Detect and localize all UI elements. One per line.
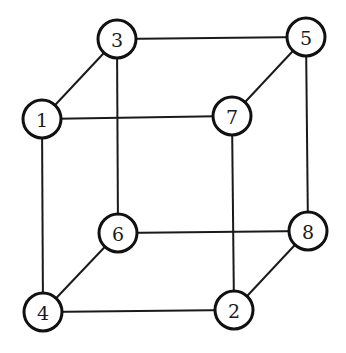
edges-layer [42,37,308,312]
edge-1-4 [42,119,43,312]
node-2: 2 [215,291,253,329]
node-3: 3 [98,20,136,58]
node-label: 2 [228,300,240,322]
node-1: 1 [23,100,61,138]
edge-4-2 [43,310,234,312]
node-8: 8 [289,212,327,250]
node-label: 7 [226,106,238,128]
node-7: 7 [213,97,251,135]
node-label: 5 [300,27,312,49]
node-label: 3 [111,29,123,51]
node-label: 1 [36,109,48,131]
node-label: 8 [302,221,314,243]
edge-3-5 [117,37,306,39]
node-label: 6 [112,223,124,245]
node-6: 6 [99,214,137,252]
node-label: 4 [37,302,49,324]
edge-7-2 [232,116,234,310]
cube-graph-diagram: 12345678 [0,0,346,353]
edge-5-8 [306,37,308,231]
edge-6-8 [118,231,308,233]
edge-3-6 [117,39,118,233]
node-4: 4 [24,293,62,331]
edge-1-7 [42,116,232,119]
node-5: 5 [287,18,325,56]
